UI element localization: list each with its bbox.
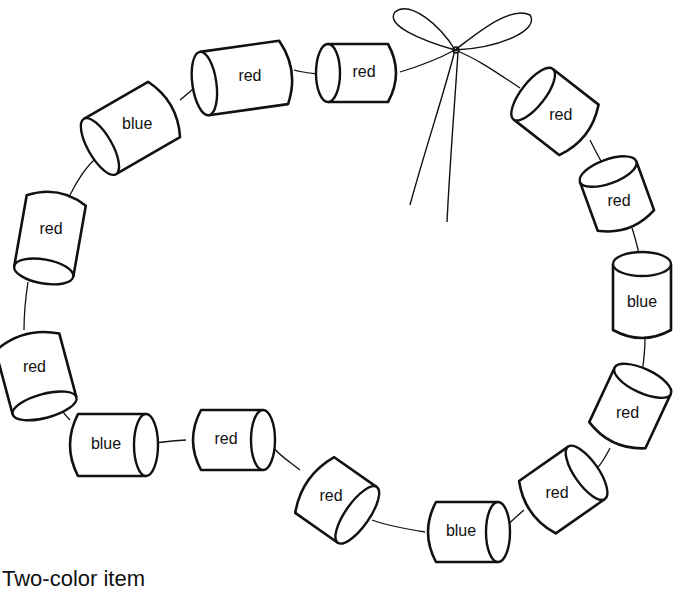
bead-label: red [616, 404, 639, 421]
bead-label: blue [446, 522, 476, 539]
bead-red: red [316, 44, 396, 102]
bead-label: red [549, 106, 572, 123]
bead-label: blue [91, 435, 121, 452]
bead-label: red [39, 220, 62, 237]
bead-label: red [320, 487, 343, 504]
bead-label: red [238, 67, 261, 84]
bead-label: red [214, 430, 237, 447]
bead-label: red [352, 63, 375, 80]
bead-blue: blue [70, 414, 158, 476]
bead-red: red [0, 326, 80, 426]
caption: Two-color item [2, 568, 145, 590]
bead-group: redredredblueredredblueredredblueredredb… [0, 40, 676, 562]
bead-label: blue [627, 293, 657, 310]
bead-blue: blue [613, 252, 671, 338]
bead-label: red [546, 484, 569, 501]
bead-blue: blue [428, 502, 510, 562]
bead-red: red [504, 62, 605, 160]
bead-red: red [193, 410, 275, 470]
bead-red: red [586, 357, 676, 456]
bead-red: red [188, 40, 296, 117]
bead-red: red [576, 150, 657, 238]
bead-red: red [12, 187, 87, 288]
bead-red: red [289, 453, 387, 550]
bead-red: red [513, 440, 615, 538]
bead-label: blue [122, 115, 152, 132]
bead-label: red [23, 358, 46, 375]
bead-blue: blue [74, 78, 187, 180]
bead-label: red [607, 192, 630, 209]
